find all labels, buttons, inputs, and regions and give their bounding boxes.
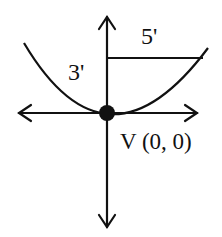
parabola-curve: [24, 43, 208, 114]
width-dimension-label: 5': [141, 24, 157, 48]
parabola-diagram: [0, 0, 222, 237]
vertex-label: V (0, 0): [120, 130, 192, 153]
height-dimension-label: 3': [68, 60, 84, 84]
vertex-point: [99, 105, 115, 121]
y-axis: [99, 17, 115, 227]
